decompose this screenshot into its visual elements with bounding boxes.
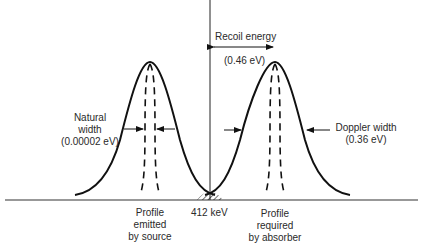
source-profile-label: Profile emitted by source xyxy=(127,207,173,243)
source-profile-line1: Profile xyxy=(127,207,173,219)
natural-width-line2: width xyxy=(58,124,122,136)
absorber-profile-line2: required xyxy=(246,220,304,232)
natural-width-line3: (0.00002 eV) xyxy=(58,136,122,148)
absorber-profile-line1: Profile xyxy=(246,208,304,220)
absorber-doppler-curve xyxy=(205,62,350,195)
source-profile-line2: emitted xyxy=(127,219,173,231)
source-profile-line3: by source xyxy=(127,231,173,243)
absorber-natural-profile-right xyxy=(275,64,285,195)
doppler-width-line2: (0.36 eV) xyxy=(330,134,402,146)
recoil-energy-value: (0.46 eV) xyxy=(224,55,265,67)
absorber-profile-label: Profile required by absorber xyxy=(246,208,304,244)
doppler-width-label: Doppler width (0.36 eV) xyxy=(330,122,402,146)
absorber-natural-profile xyxy=(265,64,275,195)
natural-width-line1: Natural xyxy=(58,112,122,124)
natural-width-label: Natural width (0.00002 eV) xyxy=(58,112,122,148)
center-energy-label: 412 keV xyxy=(191,207,228,219)
recoil-energy-label: Recoil energy xyxy=(215,31,276,43)
doppler-width-line1: Doppler width xyxy=(330,122,402,134)
absorber-profile-line3: by absorber xyxy=(246,232,304,244)
